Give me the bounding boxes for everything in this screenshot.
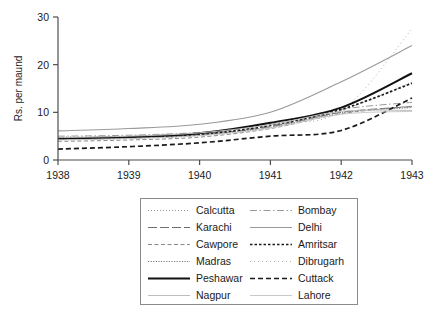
legend-label: Cuttack <box>298 270 334 287</box>
legend-item-cuttack[interactable]: Cuttack <box>249 270 351 287</box>
legend-item-cawpore[interactable]: Cawpore <box>147 236 249 253</box>
legend-item-nagpur[interactable]: Nagpur <box>147 287 249 304</box>
x-tick-label: 1943 <box>400 169 424 181</box>
legend-swatch-nagpur <box>147 291 191 300</box>
legend-swatch-bombay <box>249 206 293 215</box>
series-line-cuttack <box>58 98 412 149</box>
legend-swatch-madras <box>147 257 191 266</box>
legend: CalcuttaBombayKarachiDelhiCawporeAmritsa… <box>140 198 358 305</box>
legend-label: Calcutta <box>196 202 235 219</box>
x-tick-label: 1938 <box>46 169 70 181</box>
legend-label: Delhi <box>298 219 322 236</box>
legend-item-calcutta[interactable]: Calcutta <box>147 202 249 219</box>
series-line-karachi <box>58 107 412 140</box>
legend-label: Karachi <box>196 219 232 236</box>
y-tick-label: 10 <box>37 106 49 118</box>
legend-swatch-cawpore <box>147 240 191 249</box>
legend-label: Nagpur <box>196 287 230 304</box>
legend-label: Bombay <box>298 202 337 219</box>
y-tick-label: 20 <box>37 59 49 71</box>
legend-item-karachi[interactable]: Karachi <box>147 219 249 236</box>
y-axis-title: Rs. per maund <box>13 56 24 122</box>
legend-item-bombay[interactable]: Bombay <box>249 202 351 219</box>
legend-swatch-delhi <box>249 223 293 232</box>
x-tick-label: 1940 <box>188 169 212 181</box>
x-tick-label: 1939 <box>117 169 141 181</box>
series-line-madras <box>58 108 412 139</box>
legend-swatch-cuttack <box>249 274 293 283</box>
legend-label: Madras <box>196 253 231 270</box>
legend-label: Lahore <box>298 287 331 304</box>
legend-item-peshawar[interactable]: Peshawar <box>147 270 249 287</box>
legend-item-delhi[interactable]: Delhi <box>249 219 351 236</box>
legend-swatch-dibrugarh <box>249 257 293 266</box>
y-tick-label: 0 <box>43 154 49 166</box>
series-line-cawpore <box>58 106 412 141</box>
legend-item-madras[interactable]: Madras <box>147 253 249 270</box>
axis-labels-layer: 0102030193819391940194119421943Rs. per m… <box>13 11 424 181</box>
legend-swatch-amritsar <box>249 240 293 249</box>
legend-item-lahore[interactable]: Lahore <box>249 287 351 304</box>
legend-swatch-karachi <box>147 223 191 232</box>
legend-swatch-peshawar <box>147 274 191 283</box>
legend-item-amritsar[interactable]: Amritsar <box>249 236 351 253</box>
series-line-lahore <box>58 111 412 140</box>
x-tick-label: 1941 <box>259 169 283 181</box>
x-tick-label: 1942 <box>330 169 354 181</box>
legend-label: Cawpore <box>196 236 238 253</box>
legend-label: Dibrugarh <box>298 253 344 270</box>
plot-area <box>58 29 412 149</box>
legend-label: Amritsar <box>298 236 337 253</box>
axes-layer <box>53 17 412 165</box>
legend-swatch-calcutta <box>147 206 191 215</box>
y-tick-label: 30 <box>37 11 49 23</box>
chart-figure: 0102030193819391940194119421943Rs. per m… <box>0 0 425 321</box>
series-line-dibrugarh <box>58 29 412 137</box>
legend-label: Peshawar <box>196 270 243 287</box>
legend-grid: CalcuttaBombayKarachiDelhiCawporeAmritsa… <box>141 199 357 304</box>
legend-swatch-lahore <box>249 291 293 300</box>
legend-item-dibrugarh[interactable]: Dibrugarh <box>249 253 351 270</box>
series-line-delhi <box>58 46 412 131</box>
